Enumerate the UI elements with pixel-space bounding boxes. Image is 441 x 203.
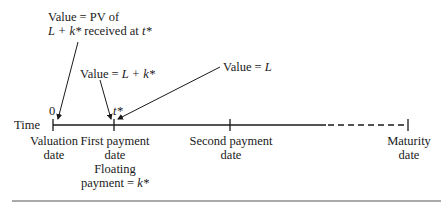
arrow-pv-to-origin <box>58 42 78 119</box>
time-axis-label: Time <box>14 118 40 132</box>
arrow-lk-to-tstar <box>100 80 111 119</box>
lk-annotation: Value = L + k* <box>80 67 155 81</box>
tick-label-first-payment: First payment date Floating payment = k* <box>74 134 156 190</box>
tick-label-maturity: Maturity date <box>384 134 434 162</box>
pv-annotation-line1: Value = PV of <box>48 10 152 24</box>
tick-label-second-payment: Second payment date <box>185 134 277 162</box>
tstar-label: t* <box>113 104 123 118</box>
l-annotation: Value = L <box>223 60 272 74</box>
pv-annotation: Value = PV of L + k* received at t* <box>48 10 152 38</box>
origin-label: 0 <box>49 104 55 118</box>
pv-annotation-line2: L + k* received at t* <box>48 24 152 38</box>
